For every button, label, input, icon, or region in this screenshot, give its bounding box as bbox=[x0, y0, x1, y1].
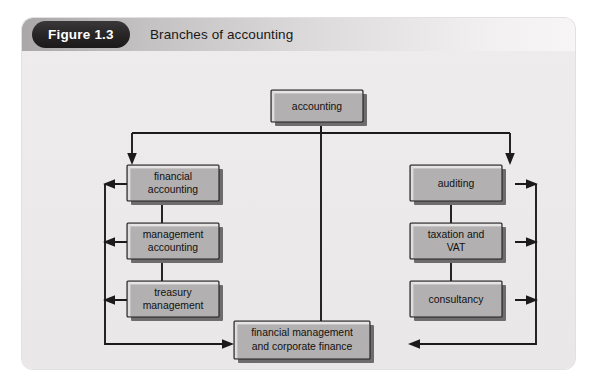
node-financial-management-and-corporate-finance[interactable]: financial management and corporate finan… bbox=[234, 321, 374, 363]
node-label-bottom-line1: financial management bbox=[251, 327, 353, 338]
node-label-bottom-line2: and corporate finance bbox=[252, 341, 353, 352]
figure-panel: Figure 1.3 Branches of accounting bbox=[22, 18, 575, 369]
node-label-accounting: accounting bbox=[292, 101, 342, 112]
node-label-financial-accounting-line1: financial bbox=[154, 171, 192, 182]
arrowhead-bottom-from-right bbox=[408, 339, 420, 349]
node-label-taxation-and-vat-line2: VAT bbox=[447, 242, 466, 253]
node-management-accounting[interactable]: management accounting bbox=[127, 223, 223, 263]
node-auditing[interactable]: auditing bbox=[410, 165, 506, 205]
node-taxation-and-vat[interactable]: taxation and VAT bbox=[410, 223, 506, 263]
node-label-financial-accounting-line2: accounting bbox=[148, 184, 198, 195]
node-label-consultancy: consultancy bbox=[429, 294, 485, 305]
node-accounting[interactable]: accounting bbox=[271, 90, 367, 126]
branches-of-accounting-diagram: accounting financial accounting manageme… bbox=[22, 51, 575, 369]
diagram-canvas: accounting financial accounting manageme… bbox=[22, 51, 575, 369]
figure-title: Branches of accounting bbox=[150, 18, 293, 51]
node-label-auditing: auditing bbox=[438, 178, 475, 189]
node-label-treasury-management-line2: management bbox=[143, 300, 204, 311]
node-consultancy[interactable]: consultancy bbox=[410, 281, 506, 321]
arrowhead-auditing bbox=[505, 153, 515, 165]
node-label-management-accounting-line1: management bbox=[143, 229, 204, 240]
figure-number-badge: Figure 1.3 bbox=[32, 21, 130, 48]
node-financial-accounting[interactable]: financial accounting bbox=[127, 165, 223, 205]
node-label-taxation-and-vat-line1: taxation and bbox=[428, 229, 485, 240]
arrowhead-bottom-from-left bbox=[222, 339, 234, 349]
node-label-treasury-management-line1: treasury bbox=[154, 287, 192, 298]
node-label-management-accounting-line2: accounting bbox=[148, 242, 198, 253]
node-treasury-management[interactable]: treasury management bbox=[127, 281, 223, 321]
arrowhead-financial-accounting bbox=[127, 153, 137, 165]
